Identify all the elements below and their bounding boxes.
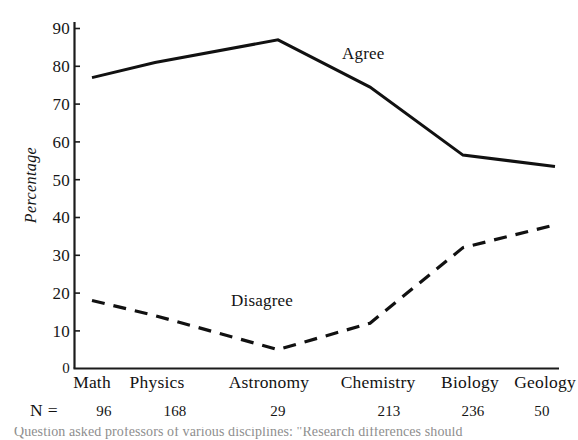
series-label-agree: Agree xyxy=(342,44,385,64)
y-tick-label-80: 80 xyxy=(26,58,70,75)
y-tick-label-20: 20 xyxy=(26,285,70,302)
x-label-math: Math xyxy=(73,370,111,394)
x-label-physics: Physics xyxy=(130,370,185,394)
x-label-chemistry: Chemistry xyxy=(341,370,416,394)
x-label-astronomy: Astronomy xyxy=(229,370,310,394)
y-tick-label-30: 30 xyxy=(26,247,70,264)
caption-text: Question asked professors of various dis… xyxy=(14,427,463,440)
sample-size-chemistry: 213 xyxy=(377,400,400,422)
figure-line-chart: 90 80 70 60 50 40 30 20 10 0 Percentage … xyxy=(0,0,578,440)
sample-size-physics: 168 xyxy=(163,400,186,422)
series-line-disagree xyxy=(92,225,555,350)
caption-clipped: Question asked professors of various dis… xyxy=(0,427,578,440)
series-label-disagree: Disagree xyxy=(231,291,293,311)
y-axis-title: Percentage xyxy=(22,130,40,240)
sample-size-row: N = 96 168 29 213 236 50 xyxy=(0,398,578,424)
sample-size-biology: 236 xyxy=(461,400,484,422)
x-axis-category-labels: Math Physics Astronomy Chemistry Biology… xyxy=(0,370,578,396)
sample-size-geology: 50 xyxy=(534,400,549,422)
sample-size-math: 96 xyxy=(96,400,111,422)
y-tick-label-70: 70 xyxy=(26,96,70,113)
y-tick-label-90: 90 xyxy=(26,20,70,37)
sample-size-astronomy: 29 xyxy=(270,400,285,422)
x-label-geology: Geology xyxy=(514,370,576,394)
sample-size-label: N = xyxy=(30,398,58,422)
y-tick-label-10: 10 xyxy=(26,323,70,340)
x-label-biology: Biology xyxy=(441,370,499,394)
series-line-agree xyxy=(92,40,555,167)
